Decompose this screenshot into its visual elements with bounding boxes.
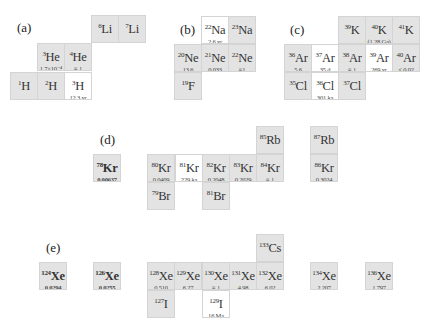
isotope-symbol: 86Kr (311, 158, 337, 175)
isotope-cell-kr-82: 82Kr0.2048 (202, 154, 230, 182)
isotope-cell-xe-130: 130Xe≡ 1 (202, 262, 230, 290)
element-symbol: Xe (268, 269, 282, 283)
isotope-value: ≡ 1 (65, 65, 91, 71)
isotope-cell-li-7: 7Li (118, 15, 146, 43)
isotope-cell-k-41: 41K (392, 16, 420, 44)
isotope-cell-na-23: 23Na (228, 16, 256, 44)
isotope-symbol: 134Xe (311, 266, 337, 283)
isotope-cell-xe-134: 134Xe2.207 (310, 262, 338, 290)
element-symbol: Kr (321, 161, 334, 175)
isotope-cell-k-39: 39K (338, 16, 366, 44)
panel-label: (a) (17, 20, 31, 36)
isotope-symbol: 131Xe (230, 266, 256, 283)
isotope-symbol: 36Ar (285, 48, 311, 65)
isotope-symbol: 6Li (92, 19, 118, 36)
panel-label: (c) (290, 22, 304, 38)
isotope-symbol: 38Ar (339, 48, 365, 65)
mass-number: 127 (154, 297, 164, 305)
isotope-cell-xe-136: 136Xe1.797 (365, 262, 393, 290)
element-symbol: I (164, 297, 168, 311)
isotope-symbol: 3He (38, 47, 64, 64)
element-symbol: Rb (266, 133, 280, 147)
isotope-cell-cl-36: 36Cl301 ka (311, 72, 339, 100)
isotope-symbol: 130Xe (203, 266, 229, 283)
isotope-cell-rb-87: 87Rb (310, 126, 338, 154)
isotope-cell-br-81: 81Br (202, 182, 230, 210)
element-symbol: Xe (214, 269, 228, 283)
element-symbol: K (351, 23, 360, 37)
panel-label: (d) (100, 132, 115, 148)
element-symbol: Ar (349, 51, 362, 65)
isotope-symbol: 19F (175, 76, 201, 93)
element-symbol: Ne (211, 51, 225, 65)
isotope-symbol: 85Rb (257, 130, 283, 147)
isotope-cell-na-22: 22Na2.6 yr (201, 16, 229, 44)
isotope-symbol: 81Kr (176, 158, 202, 175)
isotope-cell-li-6: 6Li (91, 15, 119, 43)
isotope-symbol: 40Ar (393, 48, 419, 65)
isotope-symbol: 79Br (148, 186, 174, 203)
element-symbol: Cl (296, 79, 307, 93)
element-symbol: Ne (184, 51, 198, 65)
element-symbol: K (405, 23, 414, 37)
isotope-value: 0.033 (202, 66, 228, 72)
element-symbol: Xe (322, 269, 336, 283)
isotope-cell-kr-80: 80Kr0.0409 (147, 154, 175, 182)
element-symbol: Ar (322, 51, 335, 65)
isotope-cell-xe-132: 132Xe6.02 (256, 262, 284, 290)
isotope-cell-ne-22: 22Ne≡1 (228, 44, 256, 72)
isotope-symbol: 127I (148, 294, 174, 311)
element-symbol: Br (158, 189, 170, 203)
isotope-cell-h-3: 3H12.3 yr (64, 72, 92, 100)
isotope-cell-xe-124: 124Xe0.0294 (39, 262, 67, 290)
isotope-symbol: 83Kr (230, 158, 256, 175)
element-symbol: H (75, 79, 84, 93)
isotope-value: 6.02 (257, 284, 283, 290)
element-symbol: Kr (213, 161, 226, 175)
isotope-value: 1.7×10⁻⁴ (38, 65, 64, 71)
isotope-symbol: 128Xe (148, 266, 174, 283)
isotope-symbol: 39K (339, 20, 365, 37)
isotope-value: 0.00637 (94, 176, 120, 182)
isotope-cell-i-127: 127I (147, 290, 175, 318)
isotope-symbol: 21Ne (202, 48, 228, 65)
isotope-cell-h-2: 2H (37, 72, 65, 100)
isotope-value: 6.27 (175, 284, 201, 290)
isotope-value: 0.0294 (40, 284, 66, 290)
element-symbol: Xe (105, 269, 119, 283)
element-symbol: Br (213, 189, 225, 203)
isotope-symbol: 22Ne (229, 48, 255, 65)
isotope-value: ≡ 1 (257, 176, 283, 182)
isotope-symbol: 36Cl (312, 76, 338, 93)
element-symbol: Cl (350, 79, 361, 93)
element-symbol: Na (238, 23, 252, 37)
mass-number: 130 (204, 269, 214, 277)
element-symbol: H (21, 79, 30, 93)
isotope-symbol: 78Kr (94, 158, 120, 175)
isotope-symbol: 129Xe (175, 266, 201, 283)
isotope-symbol: 82Kr (203, 158, 229, 175)
isotope-value: 301 ka (312, 94, 338, 100)
isotope-cell-kr-86: 86Kr0.3024 (310, 154, 338, 182)
element-symbol: Rb (320, 133, 334, 147)
element-symbol: Kr (103, 161, 118, 175)
isotope-value: 0.3024 (311, 176, 337, 182)
isotope-cell-kr-78: 78Kr0.00637 (93, 154, 121, 182)
element-symbol: Li (101, 22, 112, 36)
isotope-value: 4.98 (230, 284, 256, 290)
mass-number: 129 (209, 297, 219, 305)
isotope-cell-ne-21: 21Ne0.033 (201, 44, 229, 72)
isotope-symbol: 80Kr (148, 158, 174, 175)
element-symbol: Xe (159, 269, 173, 283)
mass-number: 129 (176, 269, 186, 277)
isotope-value: < 0.02 (393, 66, 419, 72)
isotope-value: 0.0255 (94, 284, 120, 290)
isotope-symbol: 87Rb (311, 130, 337, 147)
mass-number: 133 (259, 241, 269, 249)
mass-number: 128 (149, 269, 159, 277)
isotope-cell-kr-83: 83Kr0.2029 (229, 154, 257, 182)
element-symbol: Cl (323, 79, 334, 93)
isotope-value: 16 Ma (203, 312, 229, 318)
isotope-cell-i-129: 129I16 Ma (202, 290, 230, 318)
isotope-value: 229 ka (176, 176, 202, 182)
